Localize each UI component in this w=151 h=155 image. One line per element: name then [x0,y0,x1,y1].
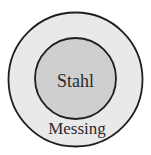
concentric-diagram: Stahl Messing [0,0,151,155]
outer-label: Messing [48,119,106,138]
inner-label: Stahl [57,71,94,91]
